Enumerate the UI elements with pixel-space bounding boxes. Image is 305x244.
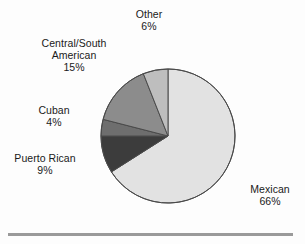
pie-label-central-south-american: Central/South American 15% (22, 37, 126, 74)
pie-label-other-value: 6% (113, 20, 185, 32)
pie-label-cuban-value: 4% (20, 116, 88, 128)
pie-label-cuban-name: Cuban (20, 104, 88, 116)
pie-label-other: Other 6% (113, 8, 185, 32)
pie-label-central-south-american-value: 15% (22, 61, 126, 73)
pie-label-other-name: Other (113, 8, 185, 20)
pie-label-puerto-rican-value: 9% (2, 164, 88, 176)
pie-chart-figure: Other 6% Central/South American 15% Cuba… (0, 0, 305, 244)
pie-label-mexican: Mexican 66% (238, 183, 302, 207)
baseline-rule (8, 233, 293, 236)
pie-label-mexican-name: Mexican (238, 183, 302, 195)
pie-label-mexican-value: 66% (238, 195, 302, 207)
pie-label-puerto-rican: Puerto Rican 9% (2, 152, 88, 176)
pie-label-cuban: Cuban 4% (20, 104, 88, 128)
pie-label-central-south-american-name-line1: Central/South (22, 37, 126, 49)
pie-label-central-south-american-name-line2: American (22, 49, 126, 61)
pie-label-puerto-rican-name: Puerto Rican (2, 152, 88, 164)
